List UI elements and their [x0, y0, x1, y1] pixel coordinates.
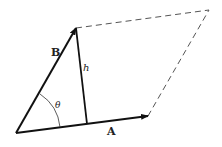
parallelogram-diagram: B h θ A [0, 0, 222, 147]
dashed-right-side [148, 10, 209, 116]
vector-b-arrow [16, 28, 76, 133]
angle-arc [40, 94, 60, 127]
vector-b-label: B [51, 46, 60, 59]
height-label: h [83, 62, 89, 73]
vector-a-arrow [16, 116, 148, 133]
angle-label: θ [55, 100, 61, 110]
height-line [76, 28, 87, 124]
vector-a-label: A [106, 125, 116, 138]
dashed-top-side [76, 10, 209, 28]
